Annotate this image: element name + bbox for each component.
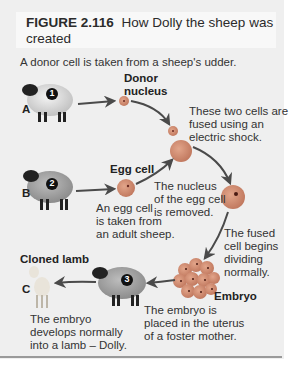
egg-cell [117, 179, 135, 197]
label-egg-cell: Egg cell [110, 163, 154, 177]
letter-c: C [22, 283, 30, 295]
annotation-egg-taken-1: An egg cell [96, 202, 153, 216]
step-marker-3: 3 [123, 274, 131, 284]
annotation-dividing-2: cell begins [224, 240, 278, 254]
letter-a: A [22, 103, 30, 115]
annotation-placed-1: The embryo is [144, 304, 217, 318]
arrow-b-to-egg [76, 189, 114, 191]
arrow-to-fused-cell [193, 147, 230, 183]
arrow-foster-to-lamb [56, 282, 96, 283]
annotation-placed-3: of a foster mother. [144, 330, 237, 344]
annotation-egg-taken-3: an adult sheep. [96, 228, 175, 242]
lamb-icon [29, 266, 50, 308]
annotation-nucleus-removed-2: of the egg cell [154, 193, 226, 207]
label-embryo: Embryo [214, 290, 257, 304]
label-nucleus: nucleus [124, 85, 167, 99]
bottom-divider [0, 356, 282, 358]
annotation-dividing-4: normally. [224, 266, 270, 280]
step-marker-2: 2 [48, 178, 56, 188]
step-marker-1: 1 [48, 88, 56, 98]
annotation-egg-taken-2: is taken from [96, 215, 162, 229]
annotation-fused-1: These two cells are [189, 105, 288, 119]
annotation-develops-1: The embryo [30, 313, 91, 327]
annotation-nucleus-removed-3: is removed. [154, 206, 213, 220]
annotation-fused-2: fused using an [189, 118, 264, 132]
sheep-foster-icon [92, 267, 146, 306]
sheep-b-icon [23, 170, 73, 210]
annotation-dividing-3: dividing [224, 253, 263, 267]
annotation-develops-2: develops normally [30, 326, 123, 340]
annotation-placed-2: placed in the uterus [144, 317, 244, 331]
annotation-fused-3: electric shock. [189, 131, 262, 145]
annotation-develops-3: into a lamb – Dolly. [30, 339, 127, 353]
arrow-a-to-nucleus [78, 101, 114, 104]
arrow-embryo-to-foster [148, 280, 175, 283]
annotation-nucleus-removed-1: The nucleus [154, 180, 217, 194]
arrow-nucleus-to-fused [131, 101, 169, 124]
embryo-icon [173, 258, 220, 299]
label-cloned-lamb: Cloned lamb [20, 253, 89, 267]
label-donor: Donor [124, 72, 158, 86]
letter-b: B [22, 187, 30, 199]
annotation-dividing-1: The fused [224, 227, 275, 241]
